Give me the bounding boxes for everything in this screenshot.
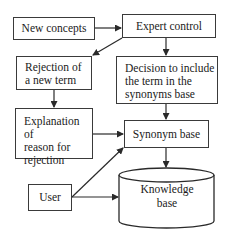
node-expert-control: Expert control [122,14,216,38]
node-label: Explanation of reason for rejection [24,115,92,167]
node-new-concepts: New concepts [13,17,95,40]
node-rejection: Rejection of a new term [16,56,92,90]
node-label: Expert control [136,20,202,33]
arrow-expert-to-rejection [93,38,122,55]
node-label: Synonym base [133,128,200,141]
node-label: New concepts [22,22,87,35]
node-decision: Decision to include the term in the syno… [116,56,218,104]
node-synonym-base: Synonym base [124,120,209,148]
node-label: Decision to include the term in the syno… [125,62,217,101]
node-explanation: Explanation of reason for rejection [15,108,93,159]
node-label: Rejection of a new term [25,61,91,87]
node-label: User [39,191,61,204]
node-user: User [28,184,72,211]
node-knowledge-base-label: Knowledge base [119,182,215,210]
